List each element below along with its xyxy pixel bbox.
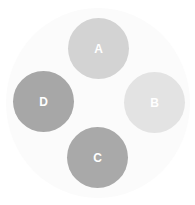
button-a-label: A [94,42,103,56]
button-d-label: D [39,95,48,109]
button-b[interactable]: B [124,72,185,133]
button-d[interactable]: D [13,71,74,132]
button-c-label: C [93,151,102,165]
button-c[interactable]: C [67,127,128,188]
button-b-label: B [150,96,159,110]
button-a[interactable]: A [68,18,129,79]
